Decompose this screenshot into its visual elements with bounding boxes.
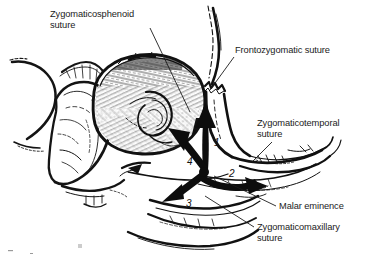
label-zygomaticosphenoid-line2: suture [50,20,75,30]
arrow-number-2: 2 [229,168,235,179]
label-zygomaticomaxillary-line1: Zygomaticomaxillary [257,222,340,232]
label-zygomaticotemporal-suture: Zygomaticotemporalsuture [257,118,339,140]
arrow-number-4: 4 [187,156,193,167]
label-malar-eminence-line1: Malar eminence [279,201,344,211]
label-frontozygomatic-suture: Frontozygomatic suture [235,45,330,56]
label-zygomaticomaxillary-line2: suture [257,233,282,243]
label-zygomaticosphenoid-suture: Zygomaticosphenoidsuture [50,9,134,31]
label-zygomaticotemporal-line2: suture [257,129,282,139]
arrow-number-3: 3 [186,198,192,209]
label-zygomaticotemporal-line1: Zygomaticotemporal [257,118,339,128]
label-malar-eminence: Malar eminence [279,201,344,212]
label-zygomaticosphenoid-line1: Zygomaticosphenoid [50,9,134,19]
arrow-number-1: 1 [214,137,220,148]
label-frontozygomatic-line1: Frontozygomatic suture [235,45,330,55]
label-zygomaticomaxillary-suture: Zygomaticomaxillarysuture [257,222,340,244]
